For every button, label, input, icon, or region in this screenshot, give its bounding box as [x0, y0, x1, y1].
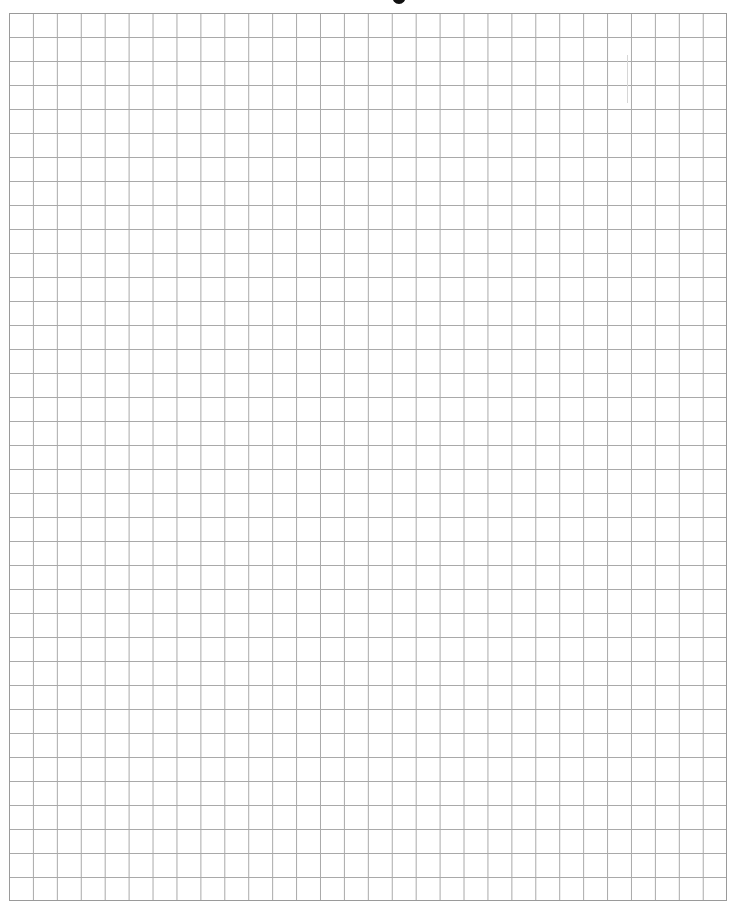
graph-paper-grid	[9, 13, 727, 901]
scan-artifact	[627, 55, 628, 103]
page-title-fragment	[392, 0, 406, 4]
